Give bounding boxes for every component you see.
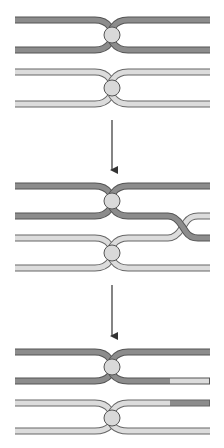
centromere [104,80,120,96]
dark-chromosome [15,20,210,50]
light-chromosome [15,72,210,104]
dark-chromosome [15,352,210,381]
centromere [104,245,120,261]
light-chromosome [15,403,210,431]
stage-1-chromosome-pair [15,20,210,104]
centromere [104,410,120,426]
centromere [104,27,120,43]
stage-3-recombinant [15,352,210,431]
crossover-point [111,206,210,248]
centromere [104,359,120,375]
centromere [104,193,120,209]
crossover-diagram [0,0,224,448]
stage-2-crossover [15,186,210,268]
